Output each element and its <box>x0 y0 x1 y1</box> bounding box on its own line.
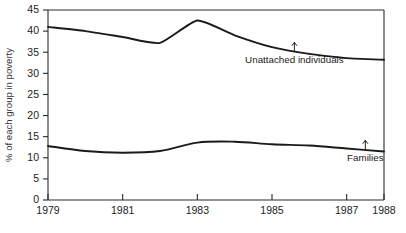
chart-background <box>0 0 406 233</box>
y-tick-label: 10 <box>27 151 39 163</box>
x-tick-label: 1985 <box>260 204 284 216</box>
chart-canvas: % of each group in poverty 0510152025303… <box>0 0 406 233</box>
y-tick-label: 35 <box>27 46 39 58</box>
y-tick-label: 20 <box>27 109 39 121</box>
x-tick-label: 1979 <box>36 204 60 216</box>
y-tick-label: 15 <box>27 130 39 142</box>
x-tick-label: 1988 <box>372 204 396 216</box>
y-tick-label: 40 <box>27 24 39 36</box>
x-tick-label: 1987 <box>335 204 359 216</box>
y-tick-label: 5 <box>33 172 39 184</box>
y-axis-title: % of each group in poverty <box>3 48 14 162</box>
poverty-line-chart: % of each group in poverty 0510152025303… <box>0 0 406 233</box>
y-tick-label: 30 <box>27 67 39 79</box>
annotation-label: Unattached individuals <box>245 54 344 65</box>
y-tick-label: 25 <box>27 88 39 100</box>
annotation-label: Families <box>347 152 384 163</box>
x-tick-label: 1981 <box>111 204 135 216</box>
y-tick-label: 45 <box>27 3 39 15</box>
x-tick-label: 1983 <box>186 204 210 216</box>
